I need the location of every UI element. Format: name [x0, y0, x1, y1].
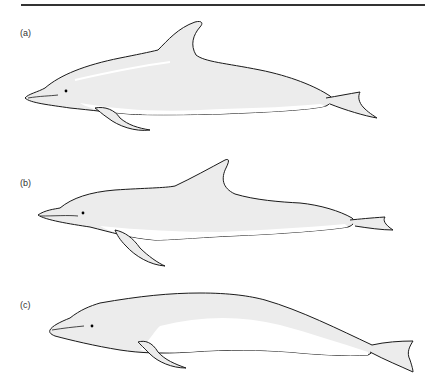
whale-c [50, 293, 413, 372]
dolphin-b [38, 159, 393, 266]
dolphin-a [25, 21, 377, 130]
dolphin-illustrations [0, 0, 434, 392]
